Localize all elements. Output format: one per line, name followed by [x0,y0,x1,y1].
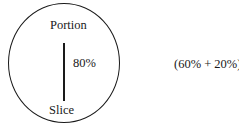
slice-label: Slice [49,103,74,117]
vertical-divider-line [63,43,65,101]
breakdown-annotation: (60% + 20%) [174,57,239,71]
portion-label: Portion [50,18,87,32]
percentage-label: 80% [73,56,96,70]
portion-slice-diagram: Portion 80% Slice (60% + 20%) [0,0,239,129]
